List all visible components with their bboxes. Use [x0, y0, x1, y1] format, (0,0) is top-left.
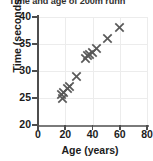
- gridline-horizontal: [38, 98, 147, 99]
- gridline-horizontal: [38, 17, 147, 18]
- gridline-vertical: [147, 17, 148, 125]
- y-axis-tick: [32, 97, 38, 99]
- y-axis-tick-label: 40: [1, 10, 31, 22]
- y-axis-tick: [32, 16, 38, 18]
- x-axis-tick-label: 40: [81, 128, 105, 140]
- chart-container: Time and age of 200m runn Time (seconds)…: [0, 0, 153, 161]
- y-axis-tick-label: 30: [1, 64, 31, 76]
- plot-area: [38, 17, 147, 125]
- x-axis-tick-label: 60: [108, 128, 132, 140]
- y-axis-tick: [32, 43, 38, 45]
- y-axis-tick: [32, 70, 38, 72]
- y-axis-tick-label: 35: [1, 37, 31, 49]
- gridline-horizontal: [38, 44, 147, 45]
- chart-title: Time and age of 200m runn: [9, 0, 153, 6]
- x-axis-tick-label: 80: [135, 128, 153, 140]
- x-axis-tick-label: 20: [53, 128, 77, 140]
- x-axis-tick-label: 0: [26, 128, 50, 140]
- gridline-horizontal: [38, 71, 147, 72]
- x-axis-title: Age (years): [30, 144, 150, 156]
- y-axis-tick-label: 25: [1, 91, 31, 103]
